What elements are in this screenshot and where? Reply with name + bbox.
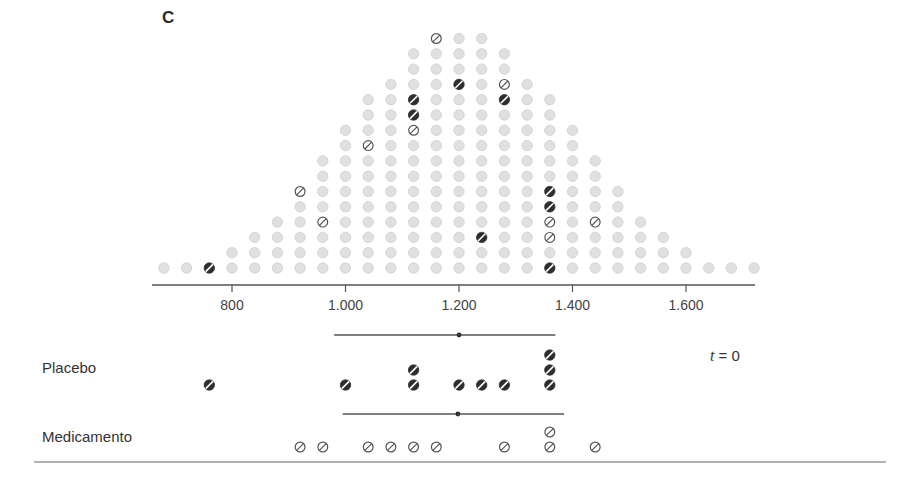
population-dot [318, 186, 328, 196]
population-dot [499, 156, 509, 166]
population-dot [408, 248, 418, 258]
population-dot [477, 263, 487, 273]
population-dot [340, 263, 350, 273]
population-dot [522, 156, 532, 166]
population-dot [499, 263, 509, 273]
placebo-highlight-dot [408, 95, 418, 105]
placebo-highlight-dot [545, 263, 555, 273]
population-dot [613, 217, 623, 227]
drug-sample-dot [545, 442, 555, 452]
population-dot [567, 125, 577, 135]
population-dot [545, 125, 555, 135]
drug-sample-dot [500, 442, 510, 452]
population-dot [658, 263, 668, 273]
placebo-highlight-dot [477, 232, 487, 242]
figure-panel: C 8001.0001.2001.4001.600 Placebo Medica… [0, 0, 907, 485]
population-dot [522, 186, 532, 196]
population-dot [522, 95, 532, 105]
dot-plot [0, 0, 907, 485]
drug-highlight-dot [431, 34, 441, 44]
population-dot [613, 202, 623, 212]
population-dot [408, 263, 418, 273]
placebo-sample-dot [545, 380, 555, 390]
mean-marker [455, 412, 460, 417]
drug-highlight-dot [318, 217, 328, 227]
placebo-highlight-dot [204, 263, 214, 273]
population-dot [477, 110, 487, 120]
population-dot [567, 140, 577, 150]
population-dot [522, 248, 532, 258]
population-dot [408, 217, 418, 227]
x-axis-ticks [232, 285, 686, 292]
population-dot [340, 232, 350, 242]
population-dot [635, 217, 645, 227]
population-dot [386, 110, 396, 120]
population-dot [318, 232, 328, 242]
population-dot [318, 263, 328, 273]
drug-dots [295, 427, 600, 452]
population-dot [408, 202, 418, 212]
x-tick-label: 1.400 [555, 297, 590, 313]
population-dot [250, 248, 260, 258]
population-dot [431, 79, 441, 89]
population-dot [477, 140, 487, 150]
population-dot [363, 171, 373, 181]
population-dot [477, 217, 487, 227]
population-dot [454, 248, 464, 258]
drug-sample-dot [295, 442, 305, 452]
population-dot [499, 232, 509, 242]
population-dot [363, 263, 373, 273]
population-dot [340, 217, 350, 227]
population-dot [340, 186, 350, 196]
population-dot [522, 79, 532, 89]
x-tick-label: 1.600 [668, 297, 703, 313]
population-dot [408, 171, 418, 181]
population-dot [386, 232, 396, 242]
population-dot [363, 125, 373, 135]
population-dot [272, 217, 282, 227]
population-dot [477, 33, 487, 43]
population-dot [454, 140, 464, 150]
placebo-highlight-dot [408, 110, 418, 120]
population-dot [318, 171, 328, 181]
population-dot [567, 156, 577, 166]
population-dot [454, 171, 464, 181]
population-dot [431, 64, 441, 74]
population-dot [431, 186, 441, 196]
population-dot [613, 248, 623, 258]
drug-highlight-dot [545, 233, 555, 243]
population-dot [318, 156, 328, 166]
placebo-sample-dot [499, 380, 509, 390]
x-tick-label: 1.200 [441, 297, 476, 313]
placebo-sample-dot [340, 380, 350, 390]
population-dot [227, 263, 237, 273]
placebo-interval [334, 333, 555, 338]
population-dot [477, 171, 487, 181]
drug-highlight-dot [590, 217, 600, 227]
population-dot [499, 217, 509, 227]
population-dot [499, 202, 509, 212]
population-dot [499, 125, 509, 135]
drug-sample-dot [409, 442, 419, 452]
population-dot [499, 140, 509, 150]
population-dot [227, 248, 237, 258]
population-dot [522, 171, 532, 181]
population-dot [658, 248, 668, 258]
placebo-label: Placebo [42, 359, 96, 376]
population-dot [454, 64, 464, 74]
population-dot [499, 49, 509, 59]
population-dots [159, 33, 760, 273]
population-dot [340, 202, 350, 212]
population-dot [567, 202, 577, 212]
population-dot [363, 186, 373, 196]
placebo-sample-dot [545, 365, 555, 375]
population-dot [454, 110, 464, 120]
population-dot [363, 248, 373, 258]
population-dot [477, 79, 487, 89]
placebo-highlight-dot [545, 186, 555, 196]
population-dot [431, 232, 441, 242]
population-dot [431, 156, 441, 166]
population-dot [408, 49, 418, 59]
population-dot [477, 202, 487, 212]
drug-sample-dot [590, 442, 600, 452]
